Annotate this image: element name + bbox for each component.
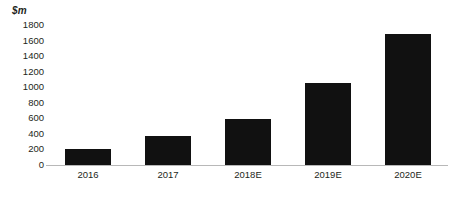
x-axis-baseline — [46, 165, 448, 166]
y-axis-tick-label: 800 — [0, 98, 44, 108]
x-axis-tick-label: 2020E — [394, 168, 421, 182]
y-axis-tick-label: 0 — [0, 160, 44, 170]
y-axis-tick-label: 1000 — [0, 82, 44, 92]
x-axis-tick-label: 2017 — [157, 168, 178, 182]
x-axis-tick-label: 2018E — [234, 168, 261, 182]
y-axis-tick-label: 200 — [0, 145, 44, 155]
y-axis-unit-label: $m — [12, 5, 27, 16]
bar — [305, 83, 351, 165]
y-axis-tick-label: 600 — [0, 114, 44, 124]
x-axis-tick-label: 2016 — [77, 168, 98, 182]
bars-layer — [48, 25, 448, 165]
bar — [65, 149, 111, 165]
bar — [225, 119, 271, 165]
x-axis: 201620172018E2019E2020E — [48, 168, 448, 184]
y-axis-tick-label: 400 — [0, 129, 44, 139]
y-axis-tick-label: 1600 — [0, 36, 44, 46]
y-axis-tick-label: 1800 — [0, 20, 44, 30]
bar — [145, 136, 191, 165]
bar-chart: $m 180016001400120010008006004002000 201… — [0, 0, 454, 198]
y-axis: 180016001400120010008006004002000 — [0, 25, 44, 165]
bar — [385, 34, 431, 165]
y-axis-tick-label: 1400 — [0, 51, 44, 61]
y-axis-tick-label: 1200 — [0, 67, 44, 77]
x-axis-tick-label: 2019E — [314, 168, 341, 182]
